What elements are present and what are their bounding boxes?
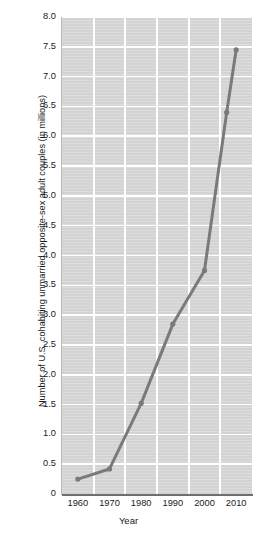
data-point-marker xyxy=(75,476,80,481)
x-tick-label: 1960 xyxy=(61,498,95,508)
y-tick-label: 2.0 xyxy=(22,369,56,379)
y-tick-label: 0.5 xyxy=(22,458,56,468)
y-tick-label: 6.5 xyxy=(22,100,56,110)
x-tick-label: 2000 xyxy=(188,498,222,508)
y-tick-label: 1.5 xyxy=(22,399,56,409)
y-tick-label: 8.0 xyxy=(22,11,56,21)
y-tick-label: 4.5 xyxy=(22,220,56,230)
y-tick-label: 1.0 xyxy=(22,428,56,438)
y-tick-label: 7.5 xyxy=(22,41,56,51)
y-tick-label: 6.0 xyxy=(22,130,56,140)
y-tick-label: 5.5 xyxy=(22,160,56,170)
data-point-marker xyxy=(234,47,239,52)
data-point-marker xyxy=(170,321,175,326)
y-tick-label: 5.0 xyxy=(22,190,56,200)
x-tick-label: 1980 xyxy=(124,498,158,508)
x-tick-label: 1970 xyxy=(93,498,127,508)
y-tick-label: 0 xyxy=(22,488,56,498)
y-tick-label: 3.5 xyxy=(22,279,56,289)
x-axis-line xyxy=(62,494,253,496)
data-point-marker xyxy=(139,401,144,406)
series-polyline xyxy=(78,50,236,479)
data-series-line xyxy=(62,17,252,494)
x-axis-title: Year xyxy=(0,515,257,526)
y-tick-label: 3.0 xyxy=(22,309,56,319)
data-point-marker xyxy=(202,268,207,273)
y-tick-label: 4.0 xyxy=(22,250,56,260)
x-tick-label: 1990 xyxy=(156,498,190,508)
y-tick-label: 2.5 xyxy=(22,339,56,349)
x-tick-label: 2010 xyxy=(219,498,253,508)
y-tick-label: 7.0 xyxy=(22,71,56,81)
data-point-marker xyxy=(107,466,112,471)
data-point-marker xyxy=(224,110,229,115)
chart-figure: Number of U.S. cohabiting unmarried oppo… xyxy=(0,0,257,538)
